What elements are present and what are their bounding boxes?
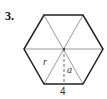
apothem-label: a — [67, 64, 72, 75]
side-length-label: 4 — [60, 86, 66, 97]
radius-label: r — [43, 56, 47, 67]
hexagon-figure: r a 4 — [0, 0, 107, 99]
center-point — [63, 48, 65, 50]
